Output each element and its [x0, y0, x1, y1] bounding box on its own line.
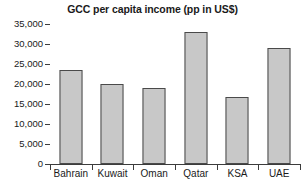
y-axis-tick-label: 0: [38, 159, 43, 169]
bar-slot: [92, 24, 134, 164]
plot-area: [50, 24, 300, 164]
x-axis-category-label: KSA: [217, 167, 259, 181]
x-axis-category-label: Kuwait: [92, 167, 134, 181]
bar: [226, 97, 249, 164]
y-axis-tick-label: 20,000: [14, 79, 43, 89]
bar-slot: [50, 24, 92, 164]
bar-slot: [217, 24, 259, 164]
bar: [184, 32, 207, 164]
x-axis-tick-mark: [133, 165, 134, 170]
bar-slot: [133, 24, 175, 164]
x-axis-category-label: Bahrain: [50, 167, 92, 181]
x-axis-category-label: Oman: [133, 167, 175, 181]
bar: [101, 84, 124, 164]
x-axis-tick-mark: [50, 165, 51, 170]
x-axis-tick-mark: [217, 165, 218, 170]
x-axis-tick-mark: [175, 165, 176, 170]
bar-chart: GCC per capita income (pp in US$) 35,000…: [0, 0, 305, 190]
y-axis-tick-label: 35,000: [14, 19, 43, 29]
bar: [59, 70, 82, 164]
bar-slot: [175, 24, 217, 164]
y-axis-tick-label: 5,000: [19, 139, 43, 149]
x-axis-category-label: Qatar: [175, 167, 217, 181]
bar: [268, 48, 291, 164]
x-axis-tick-mark: [300, 165, 301, 170]
x-axis-category-label: UAE: [258, 167, 300, 181]
chart-title: GCC per capita income (pp in US$): [0, 3, 305, 15]
bar: [143, 88, 166, 164]
y-axis: 35,00030,00025,00020,00015,00010,0005,00…: [0, 19, 50, 169]
y-axis-tick-label: 15,000: [14, 99, 43, 109]
bar-slot: [258, 24, 300, 164]
x-axis-tick-mark: [258, 165, 259, 170]
y-axis-tick-label: 30,000: [14, 39, 43, 49]
y-axis-tick-label: 10,000: [14, 119, 43, 129]
x-axis-tick-mark: [92, 165, 93, 170]
y-axis-tick-label: 25,000: [14, 59, 43, 69]
